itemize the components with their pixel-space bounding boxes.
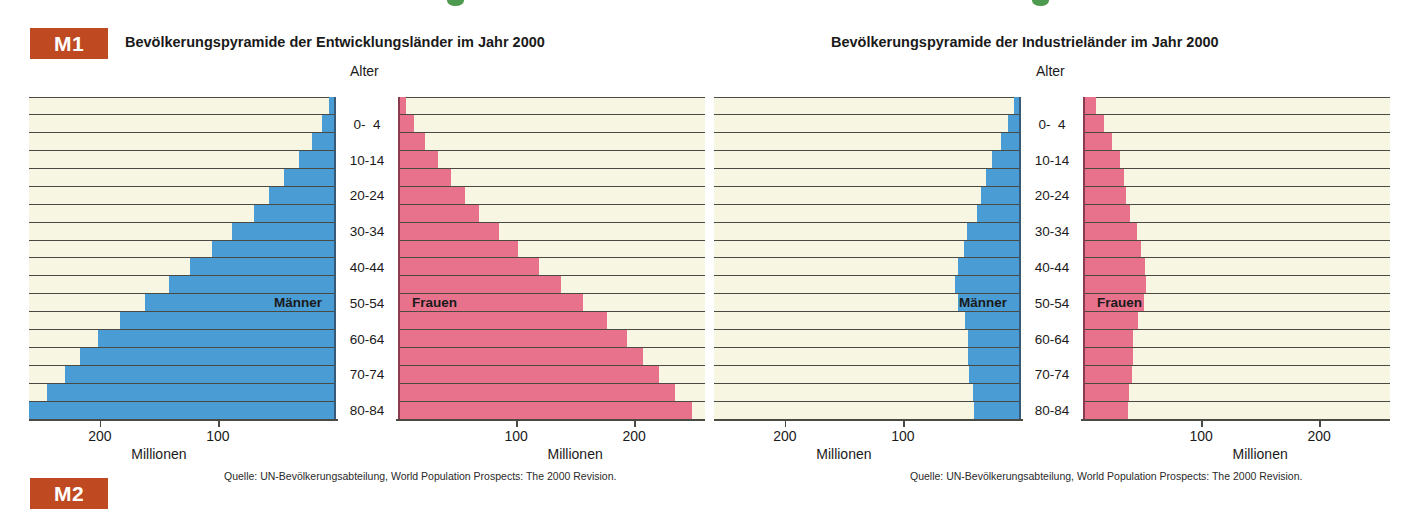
axis-tick-mark: [516, 419, 518, 427]
pyramid-bar: [958, 258, 1019, 275]
pyramid-bar: [232, 223, 334, 240]
pyramid-row: [1085, 151, 1390, 169]
pyramid-bar: [400, 223, 499, 240]
axis-tick-label: 100: [891, 428, 914, 444]
pyramid-bar: [400, 205, 479, 222]
pyramid-bar: [1085, 97, 1096, 114]
right-population-pyramid: Männer 80-8470-7460-6450-5440-4430-3420-…: [714, 97, 1390, 419]
pyramid-row: [714, 312, 1019, 330]
pyramid-bar: [190, 258, 334, 275]
pyramid-row: [714, 366, 1019, 384]
figure-badge-m2: M2: [30, 478, 108, 509]
axis-line: [396, 419, 705, 421]
right-age-tick-column: 80-8470-7460-6450-5440-4430-3420-2410-14…: [1021, 97, 1083, 419]
pyramid-bar: [1085, 366, 1132, 383]
pyramid-bar: [312, 133, 334, 150]
pyramid-row: [714, 258, 1019, 276]
axis-tick-label: 200: [773, 428, 796, 444]
pyramid-bar: [284, 169, 334, 186]
pyramid-row: [29, 97, 334, 115]
pyramid-bar: [1085, 169, 1124, 186]
age-tick-label: 80-84: [1021, 403, 1083, 418]
left-age-axis-label: Alter: [350, 63, 379, 79]
left-male-bars: [29, 97, 334, 419]
pyramid-row: [400, 115, 705, 133]
pyramid-row: [714, 151, 1019, 169]
pyramid-row: [1085, 187, 1390, 205]
pyramid-bar: [1085, 115, 1104, 132]
pyramid-bar: [329, 97, 334, 114]
pyramid-row: [29, 312, 334, 330]
age-tick-label: 50-54: [1021, 295, 1083, 310]
axis-unit-label: Millionen: [131, 446, 186, 462]
pyramid-row: [29, 402, 334, 419]
pyramid-row: [400, 276, 705, 294]
pyramid-row: [714, 402, 1019, 419]
pyramid-row: [400, 366, 705, 384]
axis-tick-label: 100: [504, 428, 527, 444]
axis-tick-mark: [100, 419, 102, 427]
left-age-tick-column: 80-8470-7460-6450-5440-4430-3420-2410-14…: [336, 97, 398, 419]
pyramid-bar: [80, 348, 334, 365]
pyramid-bar: [400, 402, 692, 419]
left-male-legend-label: Männer: [274, 295, 322, 310]
pyramid-bar: [969, 366, 1019, 383]
axis-tick-label: 100: [206, 428, 229, 444]
age-tick-label: 0- 4: [336, 116, 398, 131]
age-tick-label: 40-44: [336, 259, 398, 274]
axis-tick-label: 100: [1189, 428, 1212, 444]
pyramid-bar: [986, 169, 1019, 186]
pyramid-row: [29, 169, 334, 187]
right-male-bars: [714, 97, 1019, 419]
pyramid-row: [400, 97, 705, 115]
pyramid-bar: [1008, 115, 1019, 132]
pyramid-row: [400, 330, 705, 348]
age-tick-label: 60-64: [1021, 331, 1083, 346]
pyramid-row: [400, 402, 705, 419]
pyramid-bar: [400, 151, 438, 168]
age-tick-label: 70-74: [336, 367, 398, 382]
pyramid-bar: [65, 366, 334, 383]
age-tick-label: 80-84: [336, 403, 398, 418]
pyramid-row: [714, 187, 1019, 205]
right-source-note: Quelle: UN-Bevölkerungsabteilung, World …: [910, 470, 1302, 482]
pyramid-row: [714, 169, 1019, 187]
pyramid-bar: [400, 348, 643, 365]
pyramid-row: [1085, 133, 1390, 151]
age-tick-label: 10-14: [336, 152, 398, 167]
pyramid-bar: [1085, 330, 1133, 347]
pyramid-bar: [1014, 97, 1019, 114]
age-tick-label: 0- 4: [1021, 116, 1083, 131]
pyramid-bar: [254, 205, 334, 222]
figure-badge-m1: M1: [30, 28, 108, 59]
age-tick-label: 20-24: [1021, 188, 1083, 203]
axis-tick-mark: [1201, 419, 1203, 427]
pyramid-bar: [322, 115, 334, 132]
pyramid-row: [29, 384, 334, 402]
pyramid-row: [400, 223, 705, 241]
pyramid-bar: [1085, 187, 1126, 204]
pyramid-row: [1085, 366, 1390, 384]
axis-unit-label: Millionen: [816, 446, 871, 462]
pyramid-row: [714, 348, 1019, 366]
right-female-bars: [1085, 97, 1390, 419]
pyramid-bar: [269, 187, 334, 204]
pyramid-bar: [400, 187, 465, 204]
axis-line: [29, 419, 338, 421]
pyramid-row: [714, 115, 1019, 133]
pyramid-bar: [1085, 241, 1141, 258]
pyramid-bar: [974, 402, 1019, 419]
pyramid-row: [29, 223, 334, 241]
age-tick-label: 70-74: [1021, 367, 1083, 382]
pyramid-row: [29, 330, 334, 348]
pyramid-row: [400, 187, 705, 205]
pyramid-bar: [1085, 384, 1129, 401]
pyramid-bar: [29, 402, 334, 419]
right-chart-title: Bevölkerungspyramide der Industrieländer…: [831, 34, 1219, 50]
pyramid-row: [400, 151, 705, 169]
pyramid-row: [1085, 402, 1390, 419]
pyramid-row: [29, 276, 334, 294]
pyramid-bar: [400, 241, 518, 258]
pyramid-bar: [299, 151, 334, 168]
pyramid-row: [1085, 169, 1390, 187]
